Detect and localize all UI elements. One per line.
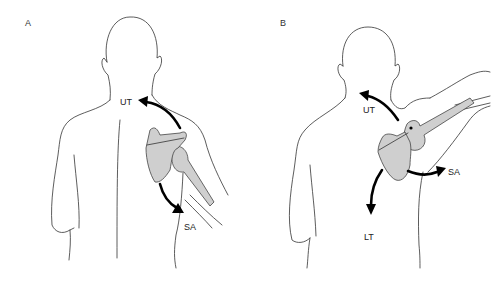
right-torso-a [175,173,184,268]
label-ut-a: UT [120,97,132,107]
panel-b: B UT SA LT [280,18,490,268]
label-lt-b: LT [364,232,374,242]
left-arm-a [74,155,79,228]
right-shoulder-b [391,98,430,109]
humerus-b [404,98,474,150]
arrow-lt-b [371,170,382,205]
right-torso-b [418,172,423,268]
arrow-sa-b-head [436,166,446,177]
arrow-lt-b-head [366,204,376,215]
spine-line-a [117,120,120,258]
label-sa-a: SA [184,222,196,232]
panel-b-label: B [280,18,286,28]
arrow-sa-a [160,184,177,208]
left-arm-b [310,165,316,236]
head-outline-b [338,27,400,100]
arrow-ut-a-head [138,96,148,107]
torso-outline-a [52,100,110,260]
panel-a-label: A [25,18,31,28]
humerus-a [172,146,214,206]
scapula-diagram: A UT SA B [0,0,491,284]
head-outline-a [102,17,162,100]
scapula-b [378,132,411,180]
label-sa-b: SA [448,167,460,177]
torso-outline-b [289,98,345,268]
panel-a: A UT SA [25,17,228,268]
pivot-point-b [409,126,412,129]
arrow-ut-b-head [359,90,369,101]
label-ut-b: UT [363,105,375,115]
